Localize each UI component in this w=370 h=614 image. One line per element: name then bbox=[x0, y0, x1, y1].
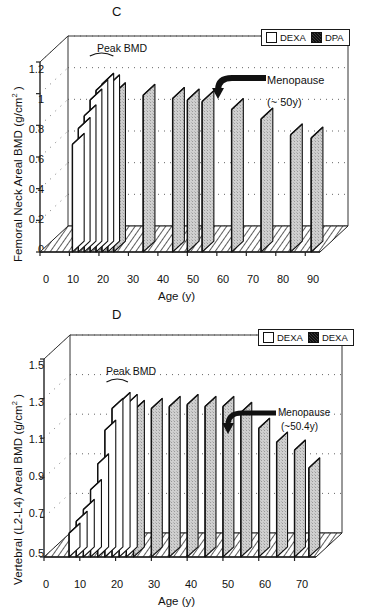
chart-c-plot bbox=[0, 0, 370, 307]
peak-bmd-label-c: Peak BMD bbox=[97, 42, 147, 54]
menopause-label-c: Menopause bbox=[267, 74, 325, 86]
legend-c: DEXA DPA bbox=[261, 29, 350, 46]
legend-swatch-open-icon bbox=[266, 32, 277, 43]
menopause-age-d: (~50.4y) bbox=[281, 421, 318, 432]
menopause-age-c: (~ 50y) bbox=[267, 96, 302, 108]
legend-label-d-0: DEXA bbox=[277, 332, 303, 343]
legend-item-d-0: DEXA bbox=[263, 332, 303, 343]
chart-d-plot bbox=[0, 307, 370, 614]
legend-swatch-filled-icon bbox=[308, 332, 319, 343]
legend-swatch-filled-icon bbox=[311, 32, 322, 43]
menopause-label-d: Menopause bbox=[278, 407, 330, 418]
legend-swatch-open-icon bbox=[263, 332, 274, 343]
legend-item-c-0: DEXA bbox=[266, 32, 306, 43]
legend-label-d-1: DEXA bbox=[322, 332, 348, 343]
peak-bmd-label-d: Peak BMD bbox=[106, 365, 156, 377]
legend-label-c-0: DEXA bbox=[280, 32, 306, 43]
panel-d: D Vertebral (L2-L4) Areal BMD (g/cm2 ) A… bbox=[0, 307, 370, 614]
panel-c: C Femoral Neck Areal BMD (g/cm2 ) Age (y… bbox=[0, 0, 370, 307]
legend-item-c-1: DPA bbox=[311, 32, 344, 43]
legend-label-c-1: DPA bbox=[325, 32, 344, 43]
legend-item-d-1: DEXA bbox=[308, 332, 348, 343]
legend-d: DEXA DEXA bbox=[258, 329, 354, 346]
